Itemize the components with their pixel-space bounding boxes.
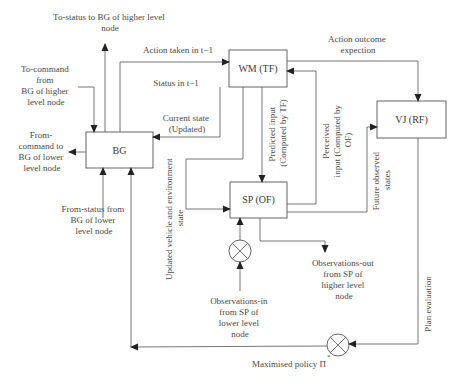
updated-vehicle-label: Updated vehicle and environment state — [164, 156, 185, 280]
vj-node: VJ (RF) — [377, 101, 446, 138]
obs-in-label: Observations-in from SP of lower level n… — [210, 296, 270, 339]
action-outcome-arrow — [287, 61, 418, 101]
sp-label: SP (OF) — [242, 194, 275, 206]
vj-label: VJ (RF) — [395, 114, 428, 126]
architecture-diagram: BG WM (TF) VJ (RF) SP (OF) — [0, 0, 463, 386]
maximised-policy-superscript: * — [327, 353, 331, 361]
bg-label: BG — [113, 145, 127, 156]
action-outcome-label: Action outcome expection — [328, 34, 388, 55]
plan-evaluation-label: Plan evaluation — [423, 276, 433, 332]
future-states-label: Future observed states — [371, 150, 392, 211]
sp-input-junction — [229, 240, 251, 262]
bg-node: BG — [86, 132, 153, 168]
to-command-label: To-command from BG of higher level node — [21, 64, 71, 107]
sp-node: SP (OF) — [230, 182, 287, 218]
action-taken-label: Action taken in t−1 — [143, 45, 213, 55]
from-status-label: From-status from BG of lower level node — [62, 204, 127, 236]
status-label: Status in t−1 — [153, 78, 199, 88]
obs-out-arrow — [260, 218, 325, 252]
obs-out-label: Observations-out from SP of higher level… — [312, 258, 376, 301]
current-state-label: Current state (Updated) — [163, 113, 212, 134]
perceived-input-label: Perceived input (Computed by OF) — [321, 103, 353, 178]
policy-feedback-arrow — [131, 346, 327, 347]
from-command-label: From- command to BG of lower level node — [18, 130, 65, 173]
predicted-input-label: Predicted input (Computed by TF) — [267, 99, 288, 166]
plan-evaluation-arrow — [349, 138, 418, 344]
perceived-input-arrow — [287, 71, 316, 204]
maximised-policy-label: Maximised policy Π — [252, 359, 326, 369]
wm-node: WM (TF) — [229, 50, 287, 87]
to-status-label: To-status to BG of higher level node — [53, 12, 167, 33]
to-command-arrow — [78, 87, 94, 132]
wm-label: WM (TF) — [238, 63, 277, 75]
